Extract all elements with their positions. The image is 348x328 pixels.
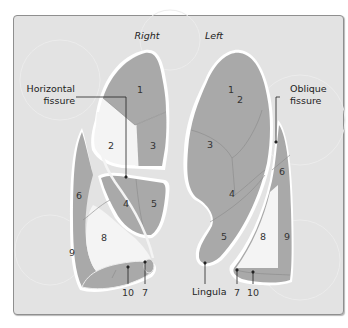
oblique-fissure-label-1: Oblique: [290, 83, 327, 94]
left-side-label: Left: [205, 30, 224, 41]
horizontal-fissure-label-1: Horizontal: [26, 83, 75, 94]
right-segment-10-label: 10: [122, 287, 134, 298]
left-segment-5: 5: [221, 231, 227, 242]
horizontal-fissure-label-2: fissure: [44, 95, 76, 106]
background-pattern: [15, 10, 345, 300]
right-segment-9: 9: [69, 247, 75, 258]
lingula-label: Lingula: [192, 286, 226, 297]
right-segment-5: 5: [151, 198, 157, 209]
right-segment-6: 6: [76, 190, 82, 201]
right-side-label: Right: [134, 30, 160, 41]
left-segment-4: 4: [229, 188, 235, 199]
right-lung: [70, 50, 170, 292]
left-segment-7-label: 7: [234, 287, 240, 298]
left-lung: [183, 50, 293, 286]
lung-segments-diagram: Right Left Horizontal fissure Oblique fi…: [0, 0, 348, 328]
left-segment-10-label: 10: [247, 287, 259, 298]
right-upper-lobe: [91, 50, 169, 170]
right-segment-2: 2: [108, 140, 114, 151]
left-segment-8: 8: [260, 231, 266, 242]
left-segment-1: 1: [228, 84, 234, 95]
right-segment-3: 3: [150, 140, 156, 151]
right-segment-8: 8: [101, 232, 107, 243]
oblique-fissure-label-2: fissure: [290, 95, 322, 106]
left-segment-6: 6: [279, 166, 285, 177]
right-segment-4: 4: [123, 198, 129, 209]
left-segment-2: 2: [237, 94, 243, 105]
right-segment-7-label: 7: [142, 287, 148, 298]
left-segment-9: 9: [284, 231, 290, 242]
left-segment-3: 3: [207, 139, 213, 150]
right-segment-1: 1: [137, 84, 143, 95]
